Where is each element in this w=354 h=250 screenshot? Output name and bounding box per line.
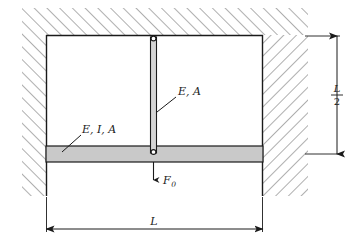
height-dimension-numerator: L (333, 83, 341, 94)
hatch-right-wall (262, 35, 308, 196)
column-label-leader (157, 97, 176, 112)
hatch-left-wall (22, 35, 46, 196)
hatch-top-band (22, 8, 308, 35)
bar-body (151, 37, 157, 153)
applied-force-group: F0 (154, 162, 177, 189)
width-dimension: L (47, 197, 263, 232)
force-label-subscript: 0 (171, 180, 176, 189)
column-material-annotation: E, A (157, 85, 201, 112)
height-dimension-denominator: 2 (334, 96, 340, 107)
vertical-bar (151, 36, 157, 154)
force-label: F0 (162, 174, 176, 189)
force-label-symbol: F (162, 174, 171, 187)
width-dimension-label: L (149, 215, 157, 228)
column-material-label: E, A (177, 85, 201, 98)
bottom-pin-joint (151, 150, 156, 155)
height-dimension: L 2 (305, 36, 343, 154)
beam-material-label: E, I, A (81, 123, 116, 136)
diagram-canvas: F0 E, A E, I, A L 2 L (0, 0, 354, 250)
top-pin-joint (151, 36, 156, 41)
engineering-figure: F0 E, A E, I, A L 2 L (0, 0, 354, 250)
